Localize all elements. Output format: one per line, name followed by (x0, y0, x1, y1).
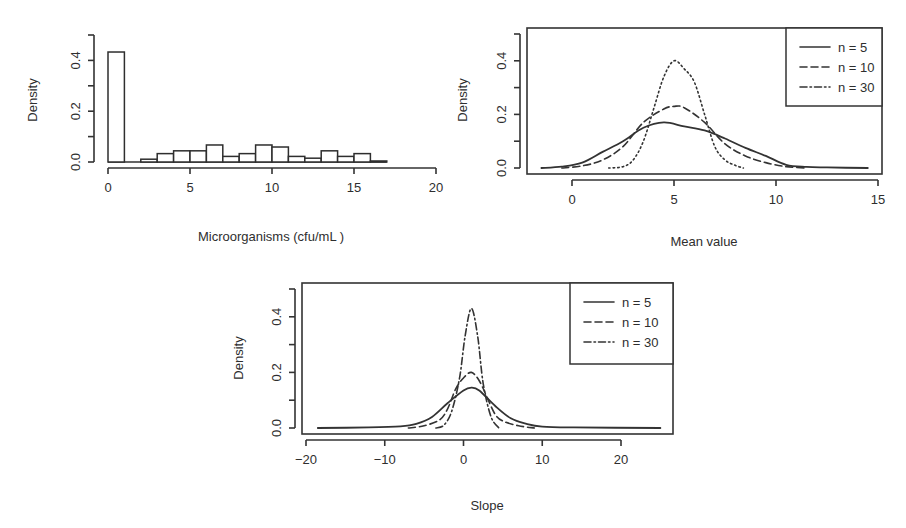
x-tick-label: 5 (670, 192, 677, 207)
histogram-bar (288, 156, 304, 162)
histogram-bar (321, 151, 337, 162)
y-axis: 0.00.20.4 (68, 35, 94, 171)
y-tick-label: 0.0 (494, 159, 509, 177)
histogram-bars (108, 52, 387, 162)
y-axis-label: Density (455, 78, 470, 122)
curve-n-30 (609, 61, 744, 168)
histogram-bar (305, 158, 321, 162)
x-tick-label: 15 (871, 192, 885, 207)
y-tick-label: 0.4 (269, 308, 284, 326)
figure-canvas: 0.00.20.4 05101520 Density Microorganism… (0, 0, 906, 528)
histogram-bar (272, 147, 288, 162)
x-axis: −20−1001020 (295, 440, 628, 467)
legend-label: n = 30 (838, 80, 875, 95)
x-tick-label: 0 (568, 192, 575, 207)
mean-density-panel: 0.00.20.4 051015 n = 5n = 10n = 30 Densi… (455, 28, 885, 249)
slope-density-panel: 0.00.20.4 −20−1001020 n = 5n = 10n = 30 … (231, 283, 673, 513)
y-axis: 0.00.20.4 (494, 34, 520, 177)
histogram-bar (141, 159, 157, 162)
x-tick-label: 0 (104, 180, 111, 195)
x-tick-label: 10 (535, 452, 549, 467)
histogram-bar (370, 161, 386, 162)
curve-n-5 (541, 122, 867, 168)
figure: 0.00.20.4 05101520 Density Microorganism… (0, 0, 906, 528)
y-tick-label: 0.2 (68, 102, 83, 120)
y-axis: 0.00.20.4 (269, 289, 295, 437)
x-tick-label: −10 (374, 452, 396, 467)
curve-n-30 (436, 308, 499, 428)
histogram-bar (108, 52, 124, 162)
x-axis: 051015 (568, 180, 885, 207)
histogram-bar (174, 151, 190, 162)
x-tick-label: −20 (295, 452, 317, 467)
histogram-bar (239, 154, 255, 162)
histogram-bar (190, 151, 206, 162)
histogram-bar (206, 145, 222, 162)
histogram-bar (256, 145, 272, 162)
x-tick-label: 10 (769, 192, 783, 207)
x-axis-label: Microorganisms (cfu/mL ) (198, 229, 344, 244)
legend: n = 5n = 10n = 30 (570, 283, 673, 364)
histogram-bar (354, 154, 370, 162)
legend-label: n = 5 (838, 40, 867, 55)
x-axis-label: Slope (470, 498, 503, 513)
x-tick-label: 20 (614, 452, 628, 467)
x-tick-label: 5 (186, 180, 193, 195)
x-axis: 05101520 (104, 168, 443, 195)
histogram-bar (223, 156, 239, 162)
y-tick-label: 0.0 (68, 153, 83, 171)
y-tick-label: 0.2 (494, 105, 509, 123)
x-tick-label: 10 (265, 180, 279, 195)
y-tick-label: 0.2 (269, 363, 284, 381)
y-tick-label: 0.4 (494, 52, 509, 70)
legend-label: n = 10 (838, 60, 875, 75)
x-tick-label: 20 (429, 180, 443, 195)
legend: n = 5n = 10n = 30 (786, 28, 882, 106)
histogram-bar (157, 154, 173, 162)
legend-label: n = 10 (622, 315, 659, 330)
legend-label: n = 30 (622, 335, 659, 350)
y-axis-label: Density (231, 336, 246, 380)
x-tick-label: 0 (460, 452, 467, 467)
curve-n-5 (318, 388, 661, 428)
histogram-panel: 0.00.20.4 05101520 Density Microorganism… (25, 35, 443, 244)
y-tick-label: 0.4 (68, 51, 83, 69)
y-tick-label: 0.0 (269, 419, 284, 437)
x-tick-label: 15 (347, 180, 361, 195)
x-axis-label: Mean value (670, 234, 737, 249)
legend-label: n = 5 (622, 295, 651, 310)
y-axis-label: Density (25, 78, 40, 122)
histogram-bar (338, 156, 354, 162)
